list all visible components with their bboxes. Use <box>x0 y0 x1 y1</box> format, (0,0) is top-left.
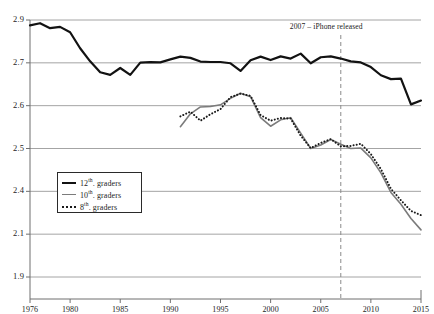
legend-item-8th: 8th. graders <box>62 200 137 212</box>
legend-swatch-solid-bold-icon <box>62 178 76 187</box>
y-tick-label-2.4: 2.4 <box>2 185 24 195</box>
x-tick-label-2005: 2005 <box>304 305 338 314</box>
legend-label: 8th. graders <box>80 201 117 212</box>
legend-label-number: 10 <box>80 190 88 199</box>
legend-label: 12th. graders <box>80 177 121 188</box>
annotation-label: 2007 – iPhone released <box>290 22 363 31</box>
y-tick-marks-group <box>26 20 30 277</box>
chart-legend: 12th. graders10th. graders8th. graders <box>57 172 142 213</box>
y-tick-label-2.1: 2.1 <box>2 228 24 238</box>
y-tick-label-2.9: 2.9 <box>2 14 24 24</box>
x-tick-label-1980: 1980 <box>53 305 87 314</box>
legend-item-10th: 10th. graders <box>62 188 137 200</box>
x-tick-label-2015: 2015 <box>404 305 434 314</box>
x-tick-marks-group <box>30 299 421 303</box>
x-tick-label-1990: 1990 <box>153 305 187 314</box>
x-tick-label-2010: 2010 <box>354 305 388 314</box>
legend-label-rest: . graders <box>93 190 121 199</box>
legend-swatch-solid-gray-icon <box>62 190 76 199</box>
legend-item-12th: 12th. graders <box>62 176 137 188</box>
series-line-10th <box>180 93 421 230</box>
y-tick-label-2.7: 2.7 <box>2 57 24 67</box>
x-tick-label-1985: 1985 <box>103 305 137 314</box>
legend-label-rest: . graders <box>89 202 117 211</box>
x-tick-label-1995: 1995 <box>203 305 237 314</box>
y-tick-label-1.9: 1.9 <box>2 271 24 281</box>
legend-label-rest: . graders <box>93 178 121 187</box>
y-tick-label-2.5: 2.5 <box>2 143 24 153</box>
y-tick-label-2.6: 2.6 <box>2 100 24 110</box>
x-tick-label-1976: 1976 <box>13 305 47 314</box>
series-line-12th <box>30 23 421 104</box>
series-line-8th <box>180 94 421 216</box>
legend-label: 10th. graders <box>80 189 121 200</box>
x-tick-label-2000: 2000 <box>254 305 288 314</box>
legend-label-number: 12 <box>80 178 88 187</box>
legend-swatch-dotted-icon <box>62 202 76 211</box>
